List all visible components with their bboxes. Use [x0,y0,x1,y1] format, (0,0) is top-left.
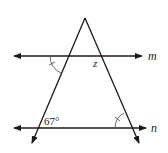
angle-z-label: z [92,57,98,69]
line-m-label: m [148,49,157,63]
geometry-diagram: m n z 67° [0,0,168,153]
angle-mark-right-n [115,113,124,128]
angle-67-label: 67° [44,115,59,127]
angle-mark-left-m [49,56,61,73]
line-n-label: n [151,121,157,135]
right-transversal [85,18,139,143]
